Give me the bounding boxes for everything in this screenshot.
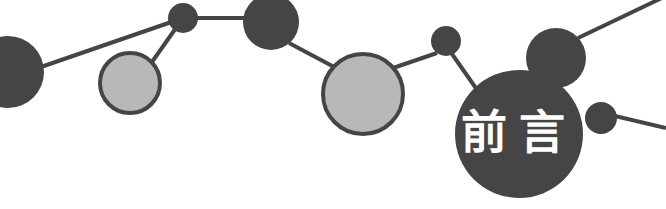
small-dark-circle-top-left <box>168 3 198 33</box>
network-decoration-graphic: 前言 <box>0 0 666 209</box>
dark-circle-top-right <box>526 28 586 88</box>
light-circle-center <box>323 54 403 134</box>
node-labels-group: 前言 <box>461 105 577 159</box>
banner-title-text: 前言 <box>461 105 577 159</box>
small-dark-circle-mid-right <box>431 26 461 56</box>
small-dark-circle-bottom-right <box>585 102 617 134</box>
chapter-title-banner: 前言 <box>0 0 666 209</box>
light-circle-left <box>100 53 160 113</box>
